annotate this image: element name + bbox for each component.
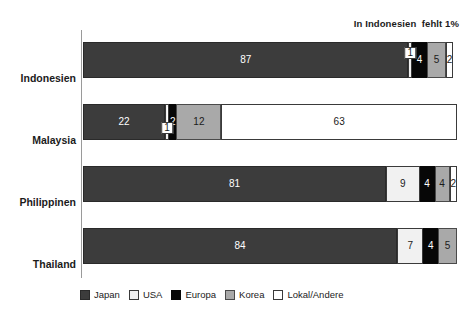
segment-korea-thailand: 5: [438, 228, 457, 264]
segment-korea-indonesien: 5: [427, 42, 446, 78]
segment-value-label: 4: [417, 55, 423, 65]
segment-value-label: 7: [407, 241, 413, 251]
stacked-bar-chart: In Indonesien fehlt 1% Indonesien Malays…: [0, 0, 469, 316]
legend-swatch-lokal-icon: [273, 290, 283, 300]
segment-value-label: 4: [428, 241, 434, 251]
chart-legend: JapanUSAEuropaKoreaLokal/Andere: [80, 289, 343, 300]
segment-korea-malaysia: 12: [176, 104, 221, 140]
segment-value-label: 84: [235, 241, 246, 251]
bar-malaysia: 22121263: [83, 104, 457, 140]
segment-value-label: 87: [240, 55, 251, 65]
legend-item-japan[interactable]: Japan: [80, 289, 120, 300]
category-label-thailand: Thailand: [0, 258, 76, 270]
legend-item-lokal[interactable]: Lokal/Andere: [273, 289, 343, 300]
segment-value-label: 2: [447, 55, 453, 65]
segment-europa-indonesien: 4: [412, 42, 427, 78]
category-axis-labels: Indonesien Malaysia Philippinen Thailand: [0, 30, 76, 278]
bar-indonesien: 871452: [83, 42, 453, 78]
legend-swatch-japan-icon: [80, 290, 90, 300]
legend-item-europa[interactable]: Europa: [171, 289, 216, 300]
plot-area: 8714522212126381944284745: [81, 30, 459, 278]
segment-value-label: 2: [450, 179, 456, 189]
segment-value-label: 12: [193, 117, 204, 127]
segment-europa-philippinen: 4: [420, 166, 435, 202]
y-axis-line: [81, 30, 82, 278]
category-label-indonesien: Indonesien: [0, 72, 76, 84]
segment-value-label: 22: [119, 117, 130, 127]
segment-value-label: 9: [400, 179, 406, 189]
category-label-malaysia: Malaysia: [0, 134, 76, 146]
segment-usa-philippinen: 9: [386, 166, 420, 202]
segment-japan-philippinen: 81: [83, 166, 386, 202]
segment-value-label: 2: [170, 117, 176, 127]
category-label-philippinen: Philippinen: [0, 196, 76, 208]
segment-korea-philippinen: 4: [435, 166, 450, 202]
segment-japan-indonesien: 87: [83, 42, 408, 78]
legend-swatch-korea-icon: [225, 290, 235, 300]
legend-label: Japan: [94, 289, 120, 300]
segment-europa-thailand: 4: [423, 228, 438, 264]
segment-value-label: 63: [334, 117, 345, 127]
segment-japan-thailand: 84: [83, 228, 397, 264]
segment-value-label: 4: [424, 179, 430, 189]
legend-label: Europa: [185, 289, 216, 300]
segment-lokal-philippinen: 2: [450, 166, 457, 202]
bar-thailand: 84745: [83, 228, 457, 264]
legend-label: Korea: [239, 289, 264, 300]
segment-lokal-malaysia: 63: [221, 104, 457, 140]
segment-europa-malaysia: 2: [169, 104, 176, 140]
bar-philippinen: 819442: [83, 166, 457, 202]
segment-japan-malaysia: 22: [83, 104, 165, 140]
leader-line: [167, 107, 168, 123]
legend-label: Lokal/Andere: [287, 289, 343, 300]
legend-item-korea[interactable]: Korea: [225, 289, 264, 300]
legend-swatch-usa-icon: [129, 290, 139, 300]
legend-label: USA: [143, 289, 163, 300]
legend-swatch-europa-icon: [171, 290, 181, 300]
segment-lokal-indonesien: 2: [446, 42, 453, 78]
chart-annotation: In Indonesien fehlt 1%: [354, 18, 459, 29]
segment-usa-thailand: 7: [397, 228, 423, 264]
legend-item-usa[interactable]: USA: [129, 289, 163, 300]
segment-value-label: 5: [445, 241, 451, 251]
segment-value-label: 81: [229, 179, 240, 189]
segment-value-label: 5: [434, 55, 440, 65]
segment-value-label: 4: [439, 179, 445, 189]
